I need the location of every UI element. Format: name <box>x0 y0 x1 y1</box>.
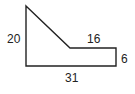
left-height-label: 20 <box>7 32 21 46</box>
bottom-length-label: 31 <box>65 71 79 85</box>
geometry-diagram: 20 16 6 31 <box>0 0 135 94</box>
right-height-label: 6 <box>121 52 128 66</box>
top-right-length-label: 16 <box>87 32 101 46</box>
composite-shape <box>26 6 116 66</box>
